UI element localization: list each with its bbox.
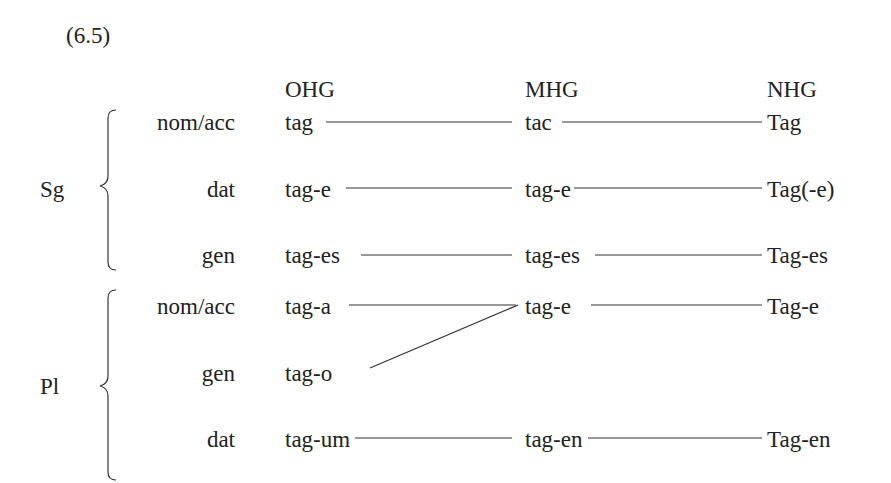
form-nhg: Tag-en xyxy=(767,428,831,451)
singular-brace xyxy=(100,110,116,270)
case-label: dat xyxy=(130,428,235,451)
group-label-singular: Sg xyxy=(40,178,64,201)
case-label: dat xyxy=(130,178,235,201)
case-label: gen xyxy=(130,362,235,385)
form-nhg: Tag xyxy=(767,111,801,134)
form-ohg: tag-es xyxy=(285,244,340,267)
form-nhg: Tag(-e) xyxy=(767,178,834,201)
case-label: gen xyxy=(130,244,235,267)
example-number: (6.5) xyxy=(66,24,110,47)
form-mhg: tag-es xyxy=(525,244,580,267)
form-mhg: tag-en xyxy=(525,428,582,451)
form-ohg: tag-um xyxy=(285,428,350,451)
column-header-nhg: NHG xyxy=(767,78,817,101)
group-label-plural: Pl xyxy=(40,375,59,398)
connector-lines xyxy=(0,0,891,483)
form-nhg: Tag-e xyxy=(767,295,819,318)
case-label: nom/acc xyxy=(130,111,235,134)
plural-brace xyxy=(100,290,116,480)
column-header-ohg: OHG xyxy=(285,78,335,101)
form-nhg: Tag-es xyxy=(767,244,828,267)
form-ohg: tag-o xyxy=(285,362,332,385)
case-label: nom/acc xyxy=(130,295,235,318)
form-ohg: tag-a xyxy=(285,295,331,318)
form-mhg: tac xyxy=(525,111,552,134)
form-mhg: tag-e xyxy=(525,178,571,201)
form-ohg: tag-e xyxy=(285,178,331,201)
form-ohg: tag xyxy=(285,111,313,134)
form-mhg: tag-e xyxy=(525,295,571,318)
column-header-mhg: MHG xyxy=(525,78,579,101)
